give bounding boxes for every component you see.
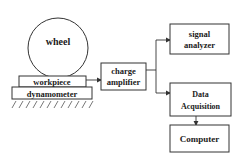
signal-analyzer-line1: signal [189, 29, 211, 39]
charge-amplifier-box: charge amplifier [101, 63, 146, 90]
data-acquisition-line2: Acquisition [181, 102, 221, 111]
charge-amplifier-line1: charge [111, 66, 136, 76]
dynamometer-label: dynamometer [27, 89, 78, 99]
workpiece-box: workpiece [19, 76, 86, 87]
signal-analyzer-box: signal analyzer [170, 24, 229, 54]
wheel-label: wheel [46, 36, 71, 47]
connector-lines [146, 40, 170, 93]
computer-box: Computer [170, 125, 229, 152]
signal-analyzer-line2: analyzer [184, 40, 215, 50]
ground-hatching [12, 101, 93, 108]
data-acquisition-box: Data Acquisition [170, 83, 231, 116]
dynamometer-box: dynamometer [12, 87, 92, 99]
workpiece-label: workpiece [33, 77, 71, 87]
data-acquisition-line1: Data [192, 90, 208, 99]
charge-amplifier-line2: amplifier [107, 77, 141, 87]
computer-label: Computer [180, 134, 220, 144]
wheel: wheel [28, 18, 88, 78]
measurement-setup-diagram: wheel workpiece dynamometer charge ampli… [0, 0, 232, 158]
